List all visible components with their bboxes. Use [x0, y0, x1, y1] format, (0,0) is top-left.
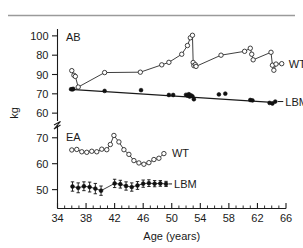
data-point-filled	[71, 87, 75, 91]
data-point-open	[160, 63, 164, 67]
data-point-open	[190, 33, 194, 37]
data-point-open	[105, 148, 109, 152]
data-point-open	[274, 62, 278, 66]
x-tick-label: 46	[137, 212, 149, 224]
data-point-open	[100, 147, 104, 151]
data-point-open	[248, 46, 252, 50]
data-point-open	[127, 152, 131, 156]
y-tick-label-upper: 60	[36, 107, 48, 119]
data-point-open	[251, 58, 255, 62]
x-tick-label: 58	[223, 212, 235, 224]
data-point-filled	[88, 185, 92, 189]
data-point-open	[180, 52, 184, 56]
data-point-open	[219, 53, 223, 57]
data-point-filled	[113, 182, 117, 186]
y-tick-label-upper: 100	[30, 30, 48, 42]
data-point-filled	[141, 182, 145, 186]
data-point-filled	[251, 98, 255, 102]
data-point-filled	[139, 88, 143, 92]
data-point-filled	[192, 97, 196, 101]
x-axis-title: Age (years)	[143, 230, 200, 242]
data-point-filled	[76, 186, 80, 190]
data-point-open	[250, 52, 254, 56]
series-label-ab-lbm: LBM	[285, 96, 303, 108]
data-point-filled	[124, 184, 128, 188]
data-point-open	[70, 68, 74, 72]
data-point-filled	[158, 182, 162, 186]
data-point-open	[194, 64, 198, 68]
series-label-ea-wt: WT	[172, 147, 189, 159]
data-point-filled	[93, 187, 97, 191]
data-point-open	[242, 49, 246, 53]
series-label-ea-lbm: LBM	[174, 178, 197, 190]
data-point-filled	[167, 93, 171, 97]
data-point-filled	[164, 182, 168, 186]
weight-lbm-age-chart: 343842465054586266Age (years)10080907060…	[0, 0, 303, 248]
x-tick-label: 66	[280, 212, 292, 224]
data-point-open	[73, 74, 77, 78]
data-point-open	[117, 140, 121, 144]
data-point-open	[272, 68, 276, 72]
data-point-open	[280, 61, 284, 65]
y-tick-label-lower: 50	[36, 184, 48, 196]
data-point-open	[138, 70, 142, 74]
data-point-open	[108, 142, 112, 146]
panel-label-ab: AB	[66, 31, 81, 43]
data-point-filled	[153, 182, 157, 186]
y-tick-label-lower: 70	[36, 132, 48, 144]
x-tick-label: 50	[166, 212, 178, 224]
data-point-open	[70, 148, 74, 152]
y-tick-label-upper: 80	[36, 49, 48, 61]
data-point-open	[167, 60, 171, 64]
data-point-open	[269, 50, 273, 54]
data-point-filled	[71, 185, 75, 189]
data-point-filled	[147, 181, 151, 185]
data-point-open	[142, 162, 146, 166]
y-tick-label-upper: 90	[36, 69, 48, 81]
x-tick-label: 34	[51, 212, 63, 224]
data-point-open	[112, 133, 116, 137]
data-point-open	[95, 150, 99, 154]
data-point-open	[80, 150, 84, 154]
data-point-filled	[171, 93, 175, 97]
figure-container: 343842465054586266Age (years)10080907060…	[0, 0, 303, 248]
data-point-filled	[130, 185, 134, 189]
x-tick-label: 62	[251, 212, 263, 224]
data-point-open	[185, 43, 189, 47]
data-point-open	[132, 158, 136, 162]
x-tick-label: 42	[109, 212, 121, 224]
data-point-filled	[223, 92, 227, 96]
y-tick-label-upper: 70	[36, 88, 48, 100]
data-point-open	[147, 160, 151, 164]
data-point-open	[102, 70, 106, 74]
x-tick-label: 38	[80, 212, 92, 224]
data-point-open	[162, 151, 166, 155]
data-point-open	[90, 149, 94, 153]
data-point-open	[137, 161, 141, 165]
data-point-filled	[136, 184, 140, 188]
data-point-filled	[118, 182, 122, 186]
panel-label-ea: EA	[66, 131, 81, 143]
data-point-open	[157, 156, 161, 160]
data-point-filled	[103, 89, 107, 93]
data-point-filled	[217, 92, 221, 96]
data-point-open	[152, 157, 156, 161]
data-point-open	[122, 148, 126, 152]
y-axis-title: kg	[8, 107, 20, 119]
data-point-open	[75, 147, 79, 151]
data-point-filled	[99, 189, 103, 193]
series-label-ab-wt: WT	[289, 58, 303, 70]
data-point-open	[85, 150, 89, 154]
y-tick-label-lower: 60	[36, 158, 48, 170]
data-point-open	[76, 85, 80, 89]
data-point-filled	[273, 100, 277, 104]
x-tick-label: 54	[194, 212, 206, 224]
data-point-filled	[82, 184, 86, 188]
